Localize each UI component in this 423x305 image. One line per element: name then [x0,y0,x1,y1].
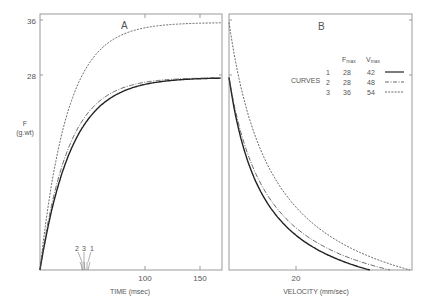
marker-label-2: 2 [75,245,79,252]
legend-row-1: 1 28 42 [326,69,404,76]
legend-vmax: 54 [367,89,375,96]
y-axis-label: F [23,120,27,127]
figure: A 36 28 F (g.wt) 100 150 TIME (msec) 2 3… [0,0,423,305]
curve-b-3 [229,23,410,271]
legend-fmax: 28 [343,79,351,86]
legend: Fmax Vmax CURVES 1 28 42 2 28 48 3 36 54 [291,56,404,96]
legend-id: 1 [326,69,330,76]
panel-a-label: A [121,20,128,31]
y-tick-label-28: 28 [27,72,36,81]
x-tick-label-20: 20 [292,274,301,283]
legend-col-vmax: Vmax [366,56,381,64]
legend-fmax: 28 [343,69,351,76]
panel-a: A 36 28 F (g.wt) 100 150 TIME (msec) 2 3… [16,14,222,296]
curve-a-3 [40,23,221,270]
y-tick-label-36: 36 [27,17,36,26]
legend-vmax: 48 [367,79,375,86]
curve-a-2 [40,78,221,270]
legend-id: 3 [326,89,330,96]
legend-row-3: 3 36 54 [326,89,404,96]
panel-b: B 20 VELOCITY (mm/sec) Fmax Vmax CURVES … [229,14,412,296]
x-axis-label-b: VELOCITY (mm/sec) [283,288,349,296]
marker-label-3: 3 [82,245,86,252]
panel-a-frame [40,14,222,270]
x-tick-label-100: 100 [138,274,152,283]
marker-label-1: 1 [90,245,94,252]
legend-row-2: 2 28 48 [326,79,404,86]
curve-b-1 [229,78,370,271]
legend-col-fmax: Fmax [342,56,356,64]
x-tick-label-150: 150 [193,274,207,283]
legend-fmax: 36 [343,89,351,96]
legend-title: CURVES [291,77,320,84]
half-time-markers [80,262,90,270]
panel-b-frame [229,14,412,270]
y-axis-unit: (g.wt) [16,129,34,137]
legend-vmax: 42 [367,69,375,76]
legend-id: 2 [326,79,330,86]
x-axis-label: TIME (msec) [110,288,150,296]
panel-b-label: B [318,21,325,32]
curve-a-1 [40,78,221,270]
